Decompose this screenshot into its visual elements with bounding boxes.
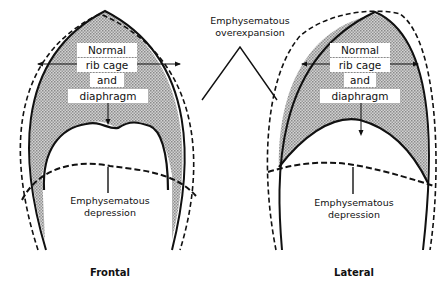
lateral-emphysematous-diaphragm [268,163,434,186]
frontal-title: Frontal [70,267,150,278]
overexpansion-label-1: Emphysematous [195,15,305,27]
frontal-depression-label-1: Emphysematous [60,195,160,207]
lateral-label-diaphragm: diaphragm [320,89,400,103]
overexpansion-callout-lines [202,47,277,100]
lateral-label-rib-cage: rib cage [330,58,390,72]
lateral-depression-label-1: Emphysematous [304,197,404,209]
lateral-depression-label-2: depression [304,209,404,221]
frontal-label-diaphragm: diaphragm [68,89,148,103]
overexpansion-label-2: overexpansion [195,27,305,39]
frontal-depression-label-2: depression [60,207,160,219]
frontal-label-rib-cage: rib cage [77,58,137,72]
frontal-label-and: and [90,73,124,87]
lateral-label-and: and [344,73,376,87]
lateral-title: Lateral [314,267,394,278]
lateral-label-normal: Normal [330,43,390,57]
frontal-label-normal: Normal [77,43,137,57]
